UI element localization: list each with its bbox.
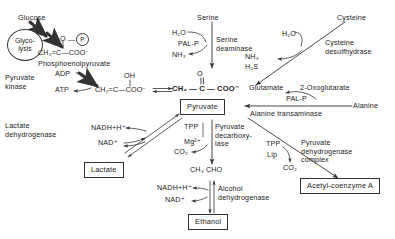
label-enolpyruvate-structure: CH₂=C—COO⁻ <box>95 86 147 94</box>
cysteine-desulfhydrase-line-2: desulfhydrase <box>325 48 372 57</box>
lactate-dehydrogenase-line-2: dehydrogenase <box>5 131 57 140</box>
label-lactate-dehydrogenase: Lactate dehydrogenase <box>5 122 57 139</box>
curve-cysteine-h2o-in <box>295 32 302 46</box>
label-atp: ATP <box>55 86 69 94</box>
pyruvate-decarboxylase-line-3: lase <box>215 140 252 149</box>
arrow-adh-nadh <box>193 188 208 190</box>
label-serine-nh3: NH₃ <box>172 51 186 59</box>
node-ethanol: Ethanol <box>188 214 228 230</box>
label-pep-phosphate-p: P <box>76 33 89 46</box>
label-oxoglutarate: 2-Oxoglutarate <box>300 84 350 92</box>
label-pyruvate-decarboxylase: Pyruvate decarboxy- lase <box>215 123 252 149</box>
arrow-lactate-to-pyruvate <box>125 114 179 153</box>
arrow-adh-nad <box>192 197 207 201</box>
label-pyruvate-carbonyl-o: O <box>197 70 203 78</box>
label-pyruvate-kinase: Pyruvate kinase <box>5 74 35 91</box>
pathway-diagram-canvas: Glucose Glyco- lysis O — P CH₂=C—COO⁻ Ph… <box>0 0 395 239</box>
arrow-atp-out <box>74 88 91 91</box>
label-enol-oh: OH <box>124 72 135 80</box>
label-pdc-co2: CO₂ <box>174 148 188 156</box>
label-pdh-lip: Lip <box>267 151 277 159</box>
arrow-ldh-nadh <box>126 128 146 131</box>
label-ldh-nad: NAD⁺ <box>98 139 118 147</box>
glycolysis-line-1: Glyco- <box>15 37 35 45</box>
pyruvate-kinase-line-2: kinase <box>5 83 35 92</box>
label-pdh-co2: CO₂ <box>283 164 297 172</box>
arrow-pdh-co2-out <box>283 147 290 162</box>
label-pdh-tpp: TPP <box>266 140 280 148</box>
label-adh-nadh: NADH+H⁺ <box>157 184 192 192</box>
label-cysteine-h2o: H₂O <box>282 30 296 38</box>
label-pyruvate-dehydrogenase-complex: Pyruvate dehydrogenase complex <box>301 139 353 165</box>
label-pep-phosphate-o: O <box>60 35 66 43</box>
label-acetaldehyde: CH₃ CHO <box>190 166 222 174</box>
label-cysteine-nh3: NH₃ <box>245 53 259 61</box>
alcohol-dehydrogenase-line-2: dehydrogenase <box>218 194 270 203</box>
label-pdc-mg: Mg²⁺ <box>184 138 201 146</box>
label-cysteine: Cysteine <box>337 14 366 22</box>
label-pdc-tpp: TPP <box>184 123 198 131</box>
label-serine-h2o: H₂O <box>172 29 186 37</box>
label-adp: ADP <box>55 70 70 78</box>
node-acetyl-coenzyme-a: Acetyl-coenzyme A <box>300 178 380 194</box>
label-alanine-palp: PAL-P <box>286 95 307 103</box>
label-alanine: Alanine <box>353 102 378 110</box>
label-serine-deaminase: Serine deaminase <box>216 36 253 53</box>
label-pep-structure: CH₂=C—COO⁻ <box>38 49 90 57</box>
label-adh-nad: NAD⁺ <box>165 196 185 204</box>
label-glucose: Glucose <box>18 14 45 22</box>
pdh-complex-line-3: complex <box>301 156 353 165</box>
label-cysteine-h2s: H₂S <box>245 63 258 71</box>
label-ldh-nadh: NADH+H⁺ <box>91 124 126 132</box>
label-alanine-transaminase: Alanine transaminase <box>250 110 322 118</box>
node-pyruvate: Pyruvate <box>180 99 225 115</box>
label-serine: Serine <box>197 14 219 22</box>
glycolysis-line-2: lysis <box>18 45 32 53</box>
node-lactate: Lactate <box>84 162 124 178</box>
label-glutamate: Glutamate <box>249 84 284 92</box>
label-cysteine-desulfhydrase: Cysteine desulfhydrase <box>325 39 372 56</box>
label-serine-palp: PAL-P <box>178 40 199 48</box>
label-pyruvate-structure: CH₃ — C — COO⁻ <box>172 85 239 93</box>
label-pep-name: Phosphoenolpyruvate <box>38 60 110 68</box>
label-alcohol-dehydrogenase: Alcohol dehydrogenase <box>218 185 270 202</box>
bond-dash-o-p: — <box>68 36 75 44</box>
